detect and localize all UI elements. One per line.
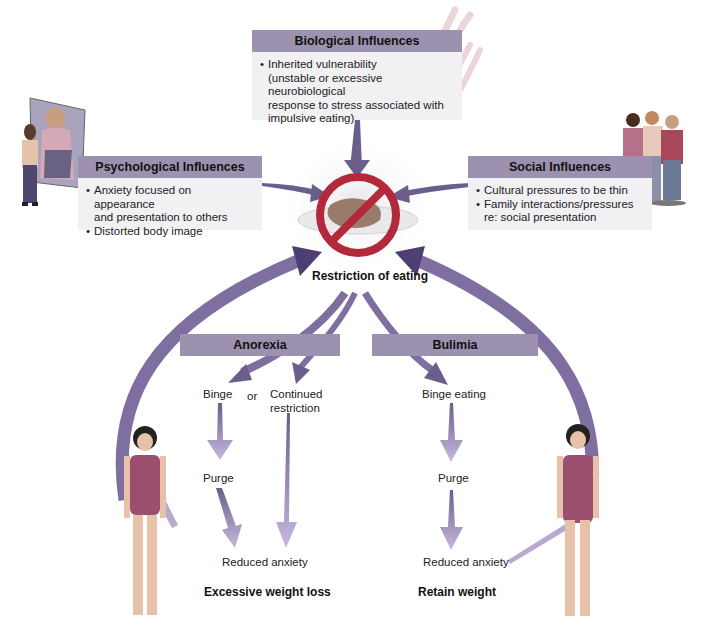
woman-mirror-illustration bbox=[22, 98, 85, 206]
anorexia-outcome: Excessive weight loss bbox=[204, 585, 331, 599]
bulimia-outcome: Retain weight bbox=[418, 585, 496, 599]
social-item: Family interactions/pressures re: social… bbox=[476, 198, 644, 225]
bulimia-binge-eating: Binge eating bbox=[422, 388, 486, 402]
psychological-item: Distorted body image bbox=[86, 225, 254, 239]
anorexia-or: or bbox=[247, 390, 257, 404]
anorexia-title-bar: Anorexia bbox=[180, 334, 340, 356]
biological-influences-title: Biological Influences bbox=[252, 30, 462, 52]
psychological-influences-box: Psychological Influences Anxiety focused… bbox=[78, 156, 262, 230]
social-influences-box: Social Influences Cultural pressures to … bbox=[468, 156, 652, 230]
social-influences-title: Social Influences bbox=[468, 156, 652, 178]
arrow-continued-to-reduced bbox=[276, 413, 297, 548]
arrow-purge-to-reduced-bulimia bbox=[440, 490, 463, 550]
bulimia-title-bar: Bulimia bbox=[372, 334, 538, 356]
anorexia-purge: Purge bbox=[203, 472, 234, 486]
biological-influences-box: Biological Influences Inherited vulnerab… bbox=[252, 30, 462, 120]
anorexia-binge: Binge bbox=[203, 388, 232, 402]
woman-swimsuit-illustration-left bbox=[124, 426, 166, 615]
anorexia-continued-restriction: Continued restriction bbox=[270, 388, 322, 415]
arrow-purge-to-reduced bbox=[216, 488, 242, 548]
anorexia-reduced-anxiety: Reduced anxiety bbox=[222, 556, 308, 570]
biological-item: Inherited vulnerability (unstable or exc… bbox=[260, 58, 454, 126]
psychological-item: Anxiety focused on appearance and presen… bbox=[86, 184, 254, 225]
arrow-binge-to-purge bbox=[207, 403, 233, 460]
social-item: Cultural pressures to be thin bbox=[476, 184, 644, 198]
restriction-of-eating-label: Restriction of eating bbox=[312, 269, 428, 283]
bulimia-purge: Purge bbox=[438, 472, 469, 486]
bulimia-reduced-anxiety: Reduced anxiety bbox=[423, 556, 509, 570]
psychological-influences-title: Psychological Influences bbox=[78, 156, 262, 178]
arrow-binge-eating-to-purge bbox=[440, 403, 463, 462]
